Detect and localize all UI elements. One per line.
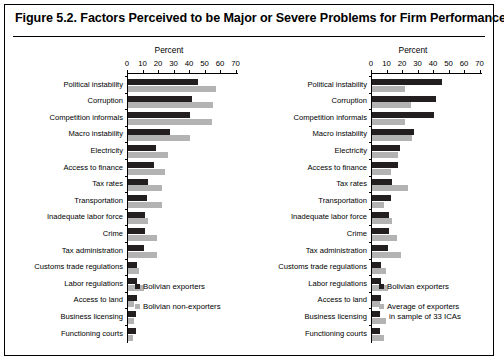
bar-series1 — [372, 179, 392, 185]
x-axis-tick — [220, 70, 221, 73]
x-axis-tick-label: 40 — [181, 59, 197, 68]
bar-series1 — [128, 245, 144, 251]
x-axis-tick — [402, 70, 403, 73]
category-label: Access to land — [253, 295, 367, 304]
bar-series2 — [372, 202, 384, 208]
bar-series1 — [128, 295, 137, 301]
y-axis-tick — [369, 93, 371, 94]
legend-label-line2: in sample of 33 ICAs — [389, 312, 461, 322]
category-label: Macro instability — [253, 129, 367, 138]
x-axis-tick — [418, 70, 419, 73]
category-label: Tax administration — [9, 246, 123, 255]
legend-swatch — [135, 284, 140, 289]
bar-series2 — [372, 218, 392, 224]
category-label: Competition informals — [9, 113, 123, 122]
bar-series2 — [128, 268, 139, 274]
x-axis-tick-label: 20 — [394, 59, 410, 68]
x-axis-tick — [205, 70, 206, 73]
y-axis-tick — [125, 225, 127, 226]
x-axis-tick — [371, 70, 372, 73]
category-label: Inadequate labor force — [253, 212, 367, 221]
category-label: Business licensing — [9, 312, 123, 321]
category-label: Customs trade regulations — [253, 262, 367, 271]
legend-swatch — [379, 304, 384, 309]
category-label: Macro instability — [9, 129, 123, 138]
x-axis-line — [127, 73, 238, 74]
y-axis-tick — [125, 109, 127, 110]
category-label: Electricity — [9, 146, 123, 155]
y-axis-tick — [125, 142, 127, 143]
y-axis-tick — [369, 259, 371, 260]
x-axis-tick — [127, 70, 128, 73]
x-axis-tick-label: 60 — [212, 59, 228, 68]
x-axis-line — [371, 73, 482, 74]
bar-series2 — [128, 252, 157, 258]
y-axis-tick — [369, 242, 371, 243]
legend-label: Bolivian exporters — [143, 282, 205, 292]
category-label: Crime — [9, 229, 123, 238]
x-axis-tick-label: 30 — [166, 59, 182, 68]
x-axis-tick-label: 20 — [150, 59, 166, 68]
x-axis-tick — [387, 70, 388, 73]
page-title: Figure 5.2. Factors Perceived to be Majo… — [15, 11, 485, 35]
y-axis-tick — [125, 209, 127, 210]
y-axis-tick — [369, 275, 371, 276]
chart-panel-left: Percent 010203040506070Political instabi… — [7, 41, 249, 353]
x-axis-tick-label: 50 — [441, 59, 457, 68]
bar-series1 — [372, 295, 381, 301]
bar-series1 — [128, 145, 156, 151]
x-axis-tick — [480, 70, 481, 73]
bar-series1 — [372, 112, 434, 118]
y-axis-tick — [369, 126, 371, 127]
bar-series2 — [128, 185, 162, 191]
x-axis-tick-label: 70 — [472, 59, 488, 68]
bar-series1 — [372, 79, 442, 85]
bar-series1 — [372, 311, 380, 317]
bar-series1 — [128, 328, 136, 334]
legend-swatch — [135, 304, 140, 309]
y-axis-tick — [369, 225, 371, 226]
bar-series1 — [372, 245, 388, 251]
category-label: Labor regulations — [253, 279, 367, 288]
bar-series2 — [128, 169, 165, 175]
bar-series2 — [128, 318, 134, 324]
bar-series2 — [372, 335, 384, 341]
y-axis-tick — [125, 176, 127, 177]
bar-series2 — [128, 102, 213, 108]
x-axis-tick-label: 0 — [119, 59, 135, 68]
plot-area-right: 010203040506070Political instabilityCorr… — [251, 41, 493, 353]
category-label: Corruption — [9, 96, 123, 105]
bar-series1 — [128, 96, 192, 102]
y-axis-tick — [125, 242, 127, 243]
category-label: Access to finance — [253, 163, 367, 172]
bar-series2 — [372, 135, 412, 141]
category-label: Access to land — [9, 295, 123, 304]
bar-series2 — [372, 185, 408, 191]
y-axis-tick — [125, 76, 127, 77]
bar-series1 — [372, 145, 400, 151]
bar-series2 — [372, 119, 405, 125]
y-axis-tick — [125, 126, 127, 127]
x-axis-tick-label: 60 — [456, 59, 472, 68]
y-axis-tick — [369, 159, 371, 160]
category-label: Tax administration — [253, 246, 367, 255]
x-axis-tick — [174, 70, 175, 73]
bar-series2 — [372, 268, 386, 274]
x-axis-tick — [449, 70, 450, 73]
y-axis-tick — [125, 325, 127, 326]
category-label: Tax rates — [9, 179, 123, 188]
legend-label: Bolivian non-exporters — [143, 302, 221, 312]
bar-series2 — [372, 169, 391, 175]
bar-series2 — [372, 235, 397, 241]
bar-series2 — [128, 152, 168, 158]
category-label: Customs trade regulations — [9, 262, 123, 271]
bar-series1 — [128, 79, 198, 85]
category-label: Corruption — [253, 96, 367, 105]
legend-swatch — [379, 284, 384, 289]
x-axis-tick — [433, 70, 434, 73]
legend-label: Bolivian exporters — [387, 282, 449, 292]
category-label: Crime — [253, 229, 367, 238]
figure-frame: Figure 5.2. Factors Perceived to be Majo… — [4, 4, 494, 356]
bar-series1 — [128, 162, 154, 168]
x-axis-tick-label: 50 — [197, 59, 213, 68]
